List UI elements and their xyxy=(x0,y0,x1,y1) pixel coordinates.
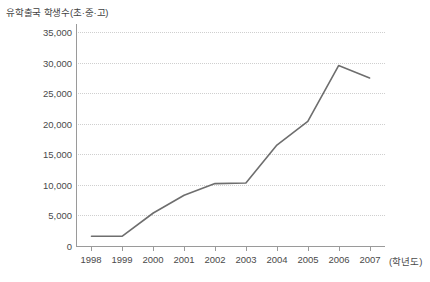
x-axis-tick-label: 2006 xyxy=(328,254,349,265)
y-axis-tick-label: 0 xyxy=(8,241,72,252)
x-axis-tick-label: 2003 xyxy=(235,254,256,265)
gridline xyxy=(76,93,385,94)
gridline xyxy=(76,63,385,64)
x-axis-tick-label: 1998 xyxy=(80,254,101,265)
x-axis-tick-label: 2002 xyxy=(204,254,225,265)
y-axis-tick-label: 20,000 xyxy=(8,118,72,129)
x-axis-tick-label: 2001 xyxy=(173,254,194,265)
x-axis-tick xyxy=(308,246,309,251)
x-axis-tick xyxy=(91,246,92,251)
gridline xyxy=(76,154,385,155)
x-axis-tick xyxy=(370,246,371,251)
x-axis-tick xyxy=(153,246,154,251)
x-axis-unit-label: (학년도) xyxy=(389,254,422,268)
y-axis-line xyxy=(76,24,77,247)
gridline xyxy=(76,185,385,186)
y-axis-tick-label: 10,000 xyxy=(8,179,72,190)
x-axis-tick xyxy=(339,246,340,251)
x-axis-tick xyxy=(184,246,185,251)
gridline xyxy=(76,215,385,216)
x-axis-tick-label: 1999 xyxy=(111,254,132,265)
x-axis-tick-label: 2005 xyxy=(297,254,318,265)
x-axis-tick xyxy=(215,246,216,251)
x-axis-tick-label: 2000 xyxy=(142,254,163,265)
y-axis-tick-label: 5,000 xyxy=(8,210,72,221)
y-axis-tick-labels: 05,00010,00015,00020,00025,00030,00035,0… xyxy=(4,24,72,246)
y-axis-tick-label: 35,000 xyxy=(8,27,72,38)
x-axis-tick xyxy=(277,246,278,251)
chart-title: 유학출국 학생수(초·중·고) xyxy=(6,5,108,19)
y-axis-tick-label: 25,000 xyxy=(8,88,72,99)
x-axis-tick xyxy=(122,246,123,251)
plot-area xyxy=(76,24,385,246)
gridline xyxy=(76,124,385,125)
x-axis-tick-label: 2007 xyxy=(359,254,380,265)
x-axis-tick xyxy=(246,246,247,251)
y-axis-tick-label: 30,000 xyxy=(8,57,72,68)
x-axis-tick-label: 2004 xyxy=(266,254,287,265)
y-axis-tick-label: 15,000 xyxy=(8,149,72,160)
gridline xyxy=(76,32,385,33)
chart-figure: 유학출국 학생수(초·중·고) 05,00010,00015,00020,000… xyxy=(0,0,430,282)
